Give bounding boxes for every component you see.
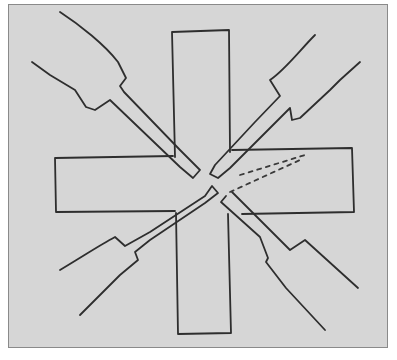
probe-bottom-left bbox=[60, 186, 218, 315]
sketch-drawing bbox=[0, 0, 397, 360]
vertical-bar bbox=[172, 30, 231, 334]
probe-top-right bbox=[210, 35, 360, 178]
dashed-line-lower bbox=[230, 160, 300, 192]
